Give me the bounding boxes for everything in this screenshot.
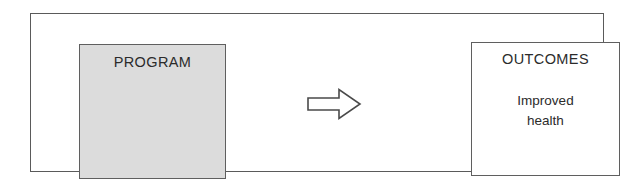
right-arrow-outline-shape xyxy=(306,87,362,121)
outcomes-node-title: OUTCOMES xyxy=(502,51,589,67)
outer-frame: PROGRAM OUTCOMES Improved health xyxy=(30,13,604,172)
program-node: PROGRAM xyxy=(79,44,226,179)
diagram-canvas: PROGRAM OUTCOMES Improved health xyxy=(0,0,633,185)
right-arrow-outline-icon xyxy=(306,87,362,121)
program-node-title: PROGRAM xyxy=(114,54,192,70)
outcomes-node-body: Improved health xyxy=(517,91,573,130)
outcomes-node: OUTCOMES Improved health xyxy=(471,42,620,176)
